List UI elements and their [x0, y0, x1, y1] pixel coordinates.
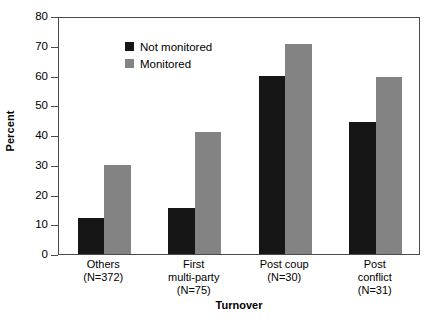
- legend-item-monitored: Monitored: [125, 56, 212, 71]
- y-axis-tick-label: 60: [8, 71, 48, 83]
- y-axis-tick-mark: [51, 196, 58, 197]
- bar-monitored: [104, 165, 131, 254]
- legend-item-not-monitored: Not monitored: [125, 39, 212, 54]
- legend-swatch-icon: [125, 59, 134, 68]
- bar-not-monitored: [78, 218, 105, 254]
- category-sample-size: (N=75): [139, 284, 249, 297]
- y-axis-tick-label: 20: [8, 190, 48, 202]
- y-axis-tick-label: 30: [8, 160, 48, 172]
- y-axis-tick-label: 40: [8, 130, 48, 142]
- plot-area: Not monitoredMonitored: [58, 17, 420, 255]
- y-axis-tick-mark: [51, 77, 58, 78]
- y-axis-tick-label: 0: [8, 249, 48, 261]
- legend-item-label: Not monitored: [140, 41, 212, 53]
- y-axis-tick-label: 50: [8, 100, 48, 112]
- y-axis-tick-mark: [51, 255, 58, 256]
- bar-not-monitored: [259, 76, 286, 255]
- y-axis-tick-label: 70: [8, 41, 48, 53]
- bar-chart-figure: Percent 01020304050607080 Not monitoredM…: [0, 0, 434, 320]
- chart-legend: Not monitoredMonitored: [125, 39, 212, 73]
- y-axis-tick-mark: [51, 166, 58, 167]
- y-axis-tick-mark: [51, 17, 58, 18]
- bar-monitored: [285, 44, 312, 254]
- legend-item-label: Monitored: [140, 58, 191, 70]
- y-axis-tick-mark: [51, 47, 58, 48]
- y-axis-tick-mark: [51, 225, 58, 226]
- y-axis-tick-label: 10: [8, 219, 48, 231]
- bar-not-monitored: [168, 208, 195, 254]
- bar-monitored: [195, 132, 222, 254]
- category-name: Post conflict: [320, 258, 430, 284]
- x-axis-category-label: Post conflict(N=31): [320, 258, 430, 297]
- bar-not-monitored: [349, 122, 376, 254]
- legend-swatch-icon: [125, 42, 134, 51]
- y-axis-tick-label: 80: [8, 11, 48, 23]
- y-axis-tick-mark: [51, 136, 58, 137]
- x-axis-title: Turnover: [58, 299, 420, 311]
- category-sample-size: (N=31): [320, 284, 430, 297]
- bar-monitored: [376, 77, 403, 254]
- y-axis-tick-mark: [51, 106, 58, 107]
